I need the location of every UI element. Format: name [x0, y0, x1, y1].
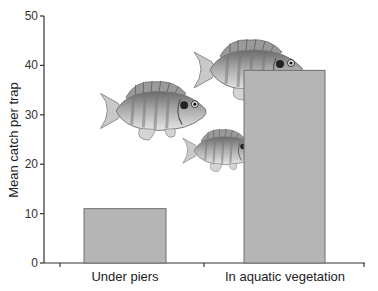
y-tick-label: 10 — [25, 207, 39, 221]
x-category-label: Under piers — [91, 269, 159, 284]
bar-in-aquatic-vegetation — [244, 70, 325, 263]
fish-icon — [101, 81, 207, 140]
y-tick-labels: 50 40 30 20 10 0 — [25, 9, 39, 270]
y-axis — [40, 16, 44, 263]
y-tick-label: 30 — [25, 108, 39, 122]
y-tick-label: 40 — [25, 58, 39, 72]
y-axis-title: Mean catch per trap — [6, 82, 21, 198]
bar-chart: 50 40 30 20 10 0 Mean catch per trap Und… — [0, 0, 378, 291]
y-tick-label: 0 — [31, 256, 38, 270]
x-category-label: In aquatic vegetation — [225, 269, 345, 284]
y-tick-label: 50 — [25, 9, 39, 23]
y-tick-label: 20 — [25, 157, 39, 171]
bars — [84, 70, 325, 263]
x-axis — [44, 263, 365, 267]
bar-under-piers — [84, 209, 166, 263]
